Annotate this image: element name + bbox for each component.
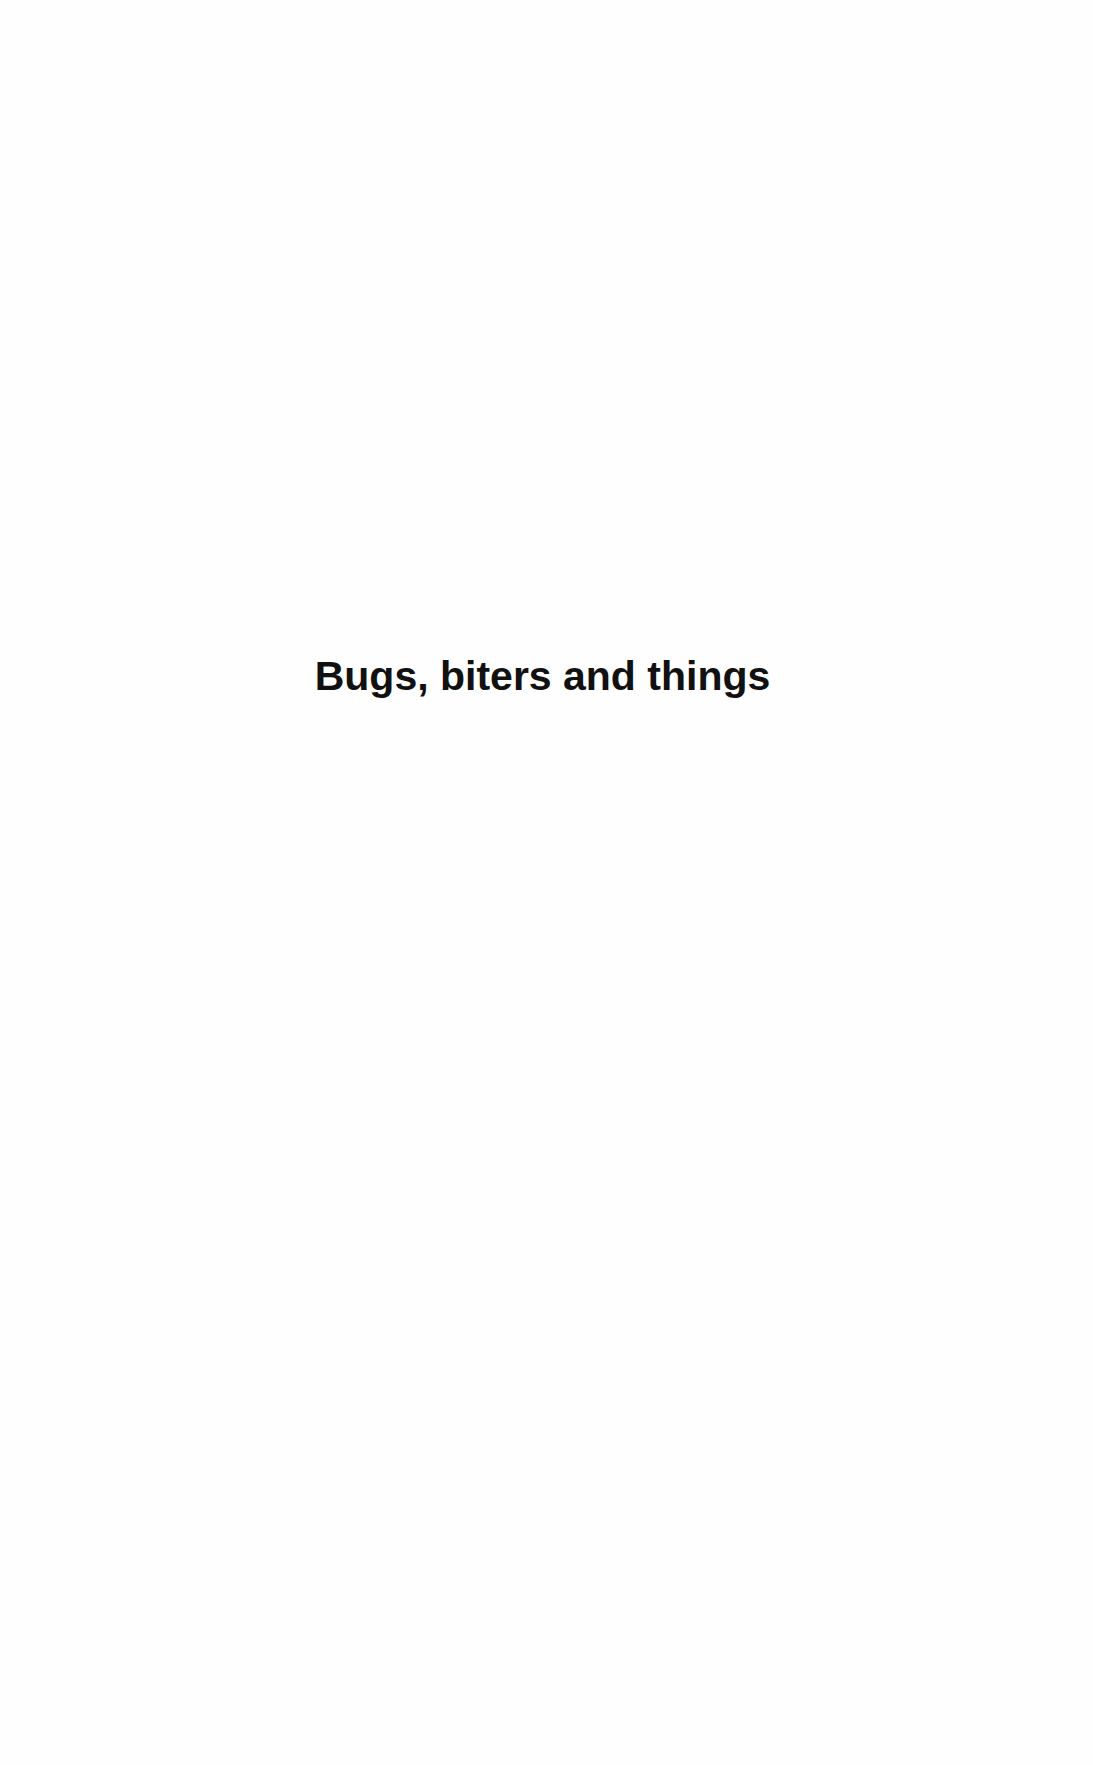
document-page: Bugs, biters and things <box>0 0 1093 1765</box>
page-title: Bugs, biters and things <box>0 648 1093 704</box>
